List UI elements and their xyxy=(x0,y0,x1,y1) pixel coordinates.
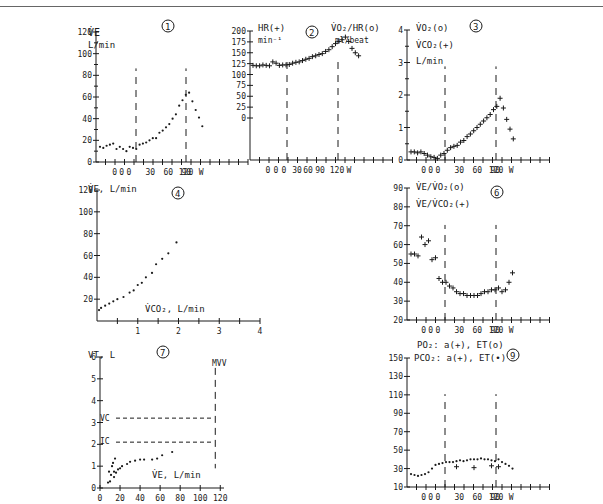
y-tick-label: 75 xyxy=(236,81,246,90)
data-point-dot xyxy=(151,272,153,274)
x-tick-label: 60 xyxy=(155,494,165,503)
data-point-dot xyxy=(420,474,422,476)
x-tick-label: 0 xyxy=(421,493,426,502)
data-point-dot xyxy=(129,292,131,294)
x-tick-label: 100 xyxy=(193,494,208,503)
x-tick-label: 0 xyxy=(428,166,433,175)
panel-4: 120100806040201234 V̇E, L/min V̇CO₂, L/m… xyxy=(79,183,263,336)
p7-mvv-label: MVV xyxy=(212,359,227,368)
x-tick-label: 2 xyxy=(176,327,181,336)
x-tick-label: 60 xyxy=(472,493,482,502)
data-point-dot xyxy=(511,467,513,469)
y-tick-label: 0 xyxy=(87,158,92,167)
x-tick-label: 3 xyxy=(217,327,222,336)
data-point-dot xyxy=(139,459,141,461)
data-point-dot xyxy=(172,118,174,120)
x-tick-label: 60 xyxy=(472,166,482,175)
x-tick-label: 80 xyxy=(175,494,185,503)
x-tick-label: W xyxy=(509,326,514,335)
x-tick-label: 60 xyxy=(472,326,482,335)
y-tick-label: 60 xyxy=(393,241,403,250)
x-tick-label: 0 xyxy=(274,166,279,175)
p3-label-unit: L/min xyxy=(416,56,443,66)
data-point-dot xyxy=(152,137,154,139)
data-point-dot xyxy=(448,461,450,463)
data-point-dot xyxy=(119,146,121,148)
x-tick-label: 0 xyxy=(435,493,440,502)
figure-canvas: 120100806040200000306090120W V̇E L/min 1… xyxy=(0,0,603,504)
data-point-dot xyxy=(100,307,102,309)
x-tick-label: 30 xyxy=(292,166,302,175)
panel-7: 6543210020406080100120 VT, L V̇E, L/min … xyxy=(88,346,228,503)
data-point-dot xyxy=(116,298,118,300)
data-point-dot xyxy=(113,471,115,473)
y-tick-label: 20 xyxy=(393,316,403,325)
data-point-dot xyxy=(431,467,433,469)
data-point-dot xyxy=(133,289,135,291)
data-point-dot xyxy=(508,465,510,467)
data-point-dot xyxy=(191,100,193,102)
x-tick-label: 90 xyxy=(315,166,325,175)
x-tick-label: 1 xyxy=(135,327,140,336)
data-point-dot xyxy=(111,465,113,467)
y-tick-label: 110 xyxy=(389,391,404,400)
y-tick-label: 60 xyxy=(83,252,93,261)
data-point-dot xyxy=(108,471,110,473)
data-point-dot xyxy=(142,142,144,144)
data-point-dot xyxy=(134,460,136,462)
data-point-dot xyxy=(148,139,150,141)
x-tick-label: 20 xyxy=(115,494,125,503)
p6-label-ve-vco2: V̇E/V̇CO₂(+) xyxy=(416,198,470,209)
p1-yunit: L/min xyxy=(88,40,115,50)
y-tick-label: 40 xyxy=(82,115,92,124)
data-point-dot xyxy=(413,474,415,476)
data-point-dot xyxy=(480,457,482,459)
x-tick-label: 0 xyxy=(266,166,271,175)
y-tick-label: 50 xyxy=(236,92,246,101)
data-point-dot xyxy=(161,258,163,260)
x-tick-label: 60 xyxy=(303,166,313,175)
y-tick-label: 70 xyxy=(393,222,403,231)
p2-ylabel: HR(+) xyxy=(258,23,285,33)
y-tick-label: 2 xyxy=(91,440,96,449)
y-tick-label: 4 xyxy=(398,26,403,35)
data-point-dot xyxy=(145,141,147,143)
p3-number: 3 xyxy=(473,22,478,32)
x-tick-label: 30 xyxy=(454,493,464,502)
y-tick-label: 25 xyxy=(236,103,246,112)
y-tick-label: 3 xyxy=(91,419,96,428)
p3-label-vo2: V̇O₂(o) xyxy=(416,22,449,33)
data-point-dot xyxy=(466,459,468,461)
data-point-dot xyxy=(114,457,116,459)
data-point-dot xyxy=(135,148,137,150)
data-point-dot xyxy=(195,109,197,111)
data-point-dot xyxy=(181,99,183,101)
p9-number: 9 xyxy=(510,351,515,361)
p1-ylabel: V̇E xyxy=(88,26,100,38)
data-point-dot xyxy=(155,137,157,139)
p7-ic-label: IC xyxy=(100,437,110,446)
p7-ylabel: VT, L xyxy=(88,350,115,360)
data-point-dot xyxy=(117,468,119,470)
data-point-dot xyxy=(438,463,440,465)
x-tick-label: 0 xyxy=(119,168,124,177)
y-tick-label: 30 xyxy=(393,465,403,474)
data-point-dot xyxy=(106,145,108,147)
y-tick-label: 125 xyxy=(232,60,247,69)
data-point-dot xyxy=(143,459,145,461)
data-point-dot xyxy=(129,146,131,148)
data-point-dot xyxy=(462,460,464,462)
data-point-dot xyxy=(175,113,177,115)
x-tick-label: 120 xyxy=(489,493,504,502)
data-point-dot xyxy=(168,123,170,125)
x-tick-label: W xyxy=(509,493,514,502)
data-point-dot xyxy=(112,142,114,144)
x-tick-label: 120 xyxy=(179,168,194,177)
data-point-dot xyxy=(161,454,163,456)
y-tick-label: 5 xyxy=(91,375,96,384)
data-point-dot xyxy=(158,132,160,134)
data-point-dot xyxy=(476,458,478,460)
p4-ylabel: V̇E, L/min xyxy=(88,183,137,194)
data-point-dot xyxy=(410,473,412,475)
x-tick-label: 0 xyxy=(282,166,287,175)
